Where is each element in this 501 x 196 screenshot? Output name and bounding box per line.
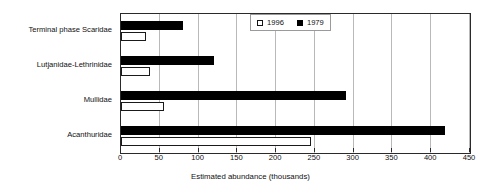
y-axis-label: Lutjanidae-Lethrinidae	[0, 60, 112, 69]
x-tick-mark	[275, 148, 276, 152]
x-tick-mark	[159, 148, 160, 152]
plot-area	[120, 13, 471, 154]
x-tick-mark	[314, 148, 315, 152]
gridline-450	[469, 14, 470, 153]
legend-label: 1979	[307, 18, 324, 27]
x-tick-mark	[391, 148, 392, 152]
x-tick-mark	[353, 148, 354, 152]
y-axis-label: Mullidae	[0, 95, 112, 104]
legend-item: 1979	[297, 18, 324, 27]
bar-1996	[121, 102, 164, 111]
bar-1979	[121, 56, 214, 65]
x-tick-label: 100	[191, 153, 204, 163]
y-axis-category-labels: Terminal phase ScaridaeLutjanidae-Lethri…	[0, 13, 116, 152]
bar-1996	[121, 137, 311, 146]
x-tick-label: 200	[269, 153, 282, 163]
x-tick-label: 450	[463, 153, 476, 163]
bar-1979	[121, 126, 445, 135]
filled-square-icon	[297, 20, 303, 26]
x-tick-label: 250	[308, 153, 321, 163]
legend-item: 1996	[257, 18, 284, 27]
legend-label: 1996	[267, 18, 284, 27]
bar-1996	[121, 67, 150, 76]
x-tick-label: 0	[118, 153, 122, 163]
x-axis-title: Estimated abundance (thousands)	[0, 172, 501, 181]
bar-1996	[121, 32, 146, 41]
y-axis-label: Terminal phase Scaridae	[0, 25, 112, 34]
x-tick-mark	[198, 148, 199, 152]
x-tick-label: 400	[424, 153, 437, 163]
chart-legend: 19961979	[250, 14, 331, 31]
x-tick-mark	[430, 148, 431, 152]
plot-inner	[121, 14, 470, 153]
x-tick-label: 350	[385, 153, 398, 163]
bar-chart: Terminal phase ScaridaeLutjanidae-Lethri…	[0, 0, 501, 196]
open-square-icon	[257, 20, 263, 26]
x-tick-label: 300	[346, 153, 359, 163]
x-tick-mark	[469, 148, 470, 152]
x-tick-label: 50	[155, 153, 163, 163]
x-tick-mark	[236, 148, 237, 152]
x-tick-mark	[120, 148, 121, 152]
bar-1979	[121, 21, 183, 30]
x-axis-ticks: 050100150200250300350400450	[120, 153, 469, 165]
x-tick-label: 150	[230, 153, 243, 163]
bar-1979	[121, 91, 346, 100]
y-axis-label: Acanthuridae	[0, 130, 112, 139]
